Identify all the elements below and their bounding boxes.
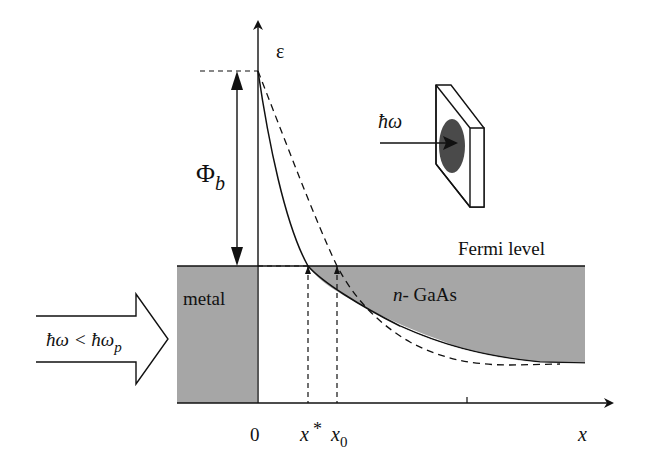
metal-region — [177, 266, 257, 403]
plate-side — [470, 128, 484, 207]
x-axis-label: x — [577, 423, 587, 445]
photon-label: ħω — [378, 110, 402, 132]
x0-label: x0 — [330, 423, 347, 450]
x-star-label: x* — [299, 419, 322, 445]
origin-label: 0 — [250, 424, 260, 445]
schottky-barrier-diagram: ε Φb Fermi level metal n- GaAs 0 x* x0 x… — [0, 0, 648, 471]
sample-inset: ħω — [378, 85, 484, 207]
metal-label: metal — [183, 288, 225, 309]
incident-light-arrow: ħω < ħωp — [36, 294, 168, 384]
n-gaas-region — [308, 266, 585, 363]
fermi-level-label: Fermi level — [458, 238, 545, 259]
barrier-label: Φb — [196, 159, 225, 194]
semiconductor-label: n- GaAs — [393, 284, 457, 305]
y-axis-label: ε — [276, 40, 284, 62]
illuminated-spot — [439, 119, 465, 173]
arrow-down-head — [231, 247, 243, 266]
arrow-up-head — [231, 71, 243, 90]
